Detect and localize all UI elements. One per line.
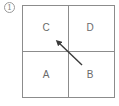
cell-label-d: D (83, 22, 97, 34)
grid-diagram (0, 0, 119, 106)
diagram-canvas: 1 C D A B (0, 0, 119, 106)
cell-label-b: B (83, 69, 97, 81)
cell-label-a: A (39, 69, 53, 81)
arrow-b-to-c (58, 42, 82, 65)
cell-label-c: C (39, 22, 53, 34)
